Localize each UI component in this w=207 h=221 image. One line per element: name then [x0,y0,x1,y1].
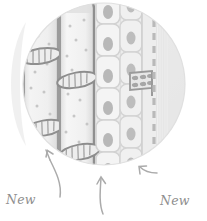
label-new-xylem: New xylem [6,165,44,221]
label-cambium: Cambium [104,201,166,221]
diagram-canvas: New xylem New phloem Cambium [0,0,207,221]
label-new-xylem-line1: New [6,193,44,207]
label-new-phloem: New phloem [160,166,207,221]
xylem-vessel-1 [20,0,65,176]
label-new-phloem-line1: New [160,194,207,208]
leader-xylem [46,150,60,197]
xylem-vessel-2 [56,0,101,178]
leader-phloem [139,166,157,174]
cambium-column-a [96,0,120,182]
